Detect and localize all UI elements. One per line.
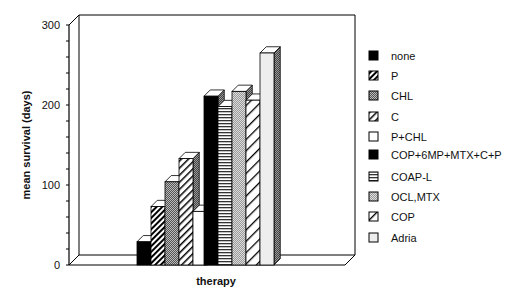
bars <box>137 47 280 265</box>
y-axis-label: mean survival (days) <box>20 90 32 199</box>
legend-label: P <box>391 70 398 82</box>
bar-front <box>179 159 193 265</box>
legend-label: OCL,MTX <box>391 191 441 203</box>
legend-swatch <box>369 91 378 100</box>
legend-swatch <box>369 150 378 159</box>
bar-front <box>137 242 151 265</box>
legend-swatch <box>369 172 378 181</box>
legend-swatch <box>369 212 378 221</box>
legend-item: Adria <box>369 232 418 244</box>
legend-item: P <box>369 70 398 82</box>
y-tick-label: 0 <box>54 259 60 271</box>
bar-front <box>165 182 179 265</box>
bar-front <box>218 107 232 265</box>
legend-item: P+CHL <box>369 131 427 143</box>
legend-label: C <box>391 111 399 123</box>
y-tick-label: 300 <box>42 19 60 31</box>
legend-item: none <box>369 50 415 62</box>
legend-label: Adria <box>391 232 418 244</box>
bar-chart: 0100200300 mean survival (days) therapy … <box>0 0 520 299</box>
legend-label: COAP-L <box>391 171 432 183</box>
bar <box>260 47 280 265</box>
x-axis-label: therapy <box>196 275 237 287</box>
legend-item: OCL,MTX <box>369 191 441 203</box>
legend-item: COP <box>369 211 415 223</box>
bar-front <box>204 96 218 265</box>
legend-item: COP+6MP+MTX+C+P <box>369 149 502 161</box>
legend-swatch <box>369 192 378 201</box>
legend-item: CHL <box>369 90 413 102</box>
bar-front <box>232 91 246 265</box>
bar-front <box>151 207 165 265</box>
bar-front <box>246 100 260 265</box>
legend-swatch <box>369 132 378 141</box>
bar-front <box>260 53 274 265</box>
legend-swatch <box>369 71 378 80</box>
legend-swatch <box>369 112 378 121</box>
legend-item: C <box>369 111 399 123</box>
legend-label: none <box>391 50 415 62</box>
legend-item: COAP-L <box>369 171 432 183</box>
legend-swatch <box>369 51 378 60</box>
legend-label: COP+6MP+MTX+C+P <box>391 149 502 161</box>
legend-label: P+CHL <box>391 131 427 143</box>
y-tick-label: 200 <box>42 99 60 111</box>
bar-side <box>274 47 280 265</box>
legend-label: CHL <box>391 90 413 102</box>
legend: nonePCHLCP+CHLCOP+6MP+MTX+C+PCOAP-LOCL,M… <box>369 50 502 244</box>
legend-label: COP <box>391 211 415 223</box>
y-tick-label: 100 <box>42 179 60 191</box>
legend-swatch <box>369 233 378 242</box>
y-axis: 0100200300 <box>42 19 69 271</box>
